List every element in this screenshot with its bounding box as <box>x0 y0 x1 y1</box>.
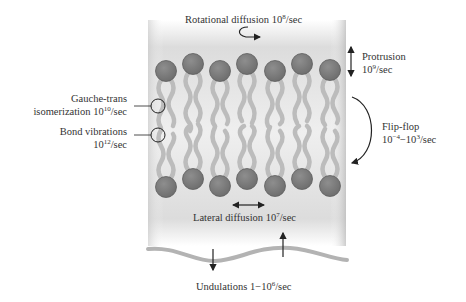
undulation-wave <box>148 248 347 261</box>
rotational-diffusion-label: Rotational diffusion 108/sec <box>185 13 302 26</box>
flipflop-label: Flip-flop 10−4−103/sec <box>382 120 436 146</box>
head-group <box>292 169 313 190</box>
head-group <box>210 176 231 197</box>
head-group <box>237 54 258 75</box>
head-group <box>156 61 177 82</box>
lipid-bilayer-diagram <box>0 0 466 302</box>
head-group <box>265 176 286 197</box>
head-group <box>183 169 204 190</box>
gauche-trans-label: Gauche-trans isomerization 1010/sec <box>33 92 127 118</box>
undulations-label: Undulations 1−106/sec <box>196 280 291 293</box>
head-group <box>156 177 177 198</box>
head-group <box>183 54 204 75</box>
flipflop-arrow-icon <box>352 97 372 163</box>
bond-vibrations-label: Bond vibrations 1012/sec <box>60 125 127 151</box>
head-group <box>292 54 313 75</box>
head-group <box>210 61 231 82</box>
lateral-diffusion-label: Lateral diffusion 107/sec <box>193 211 296 224</box>
head-group <box>320 176 341 197</box>
head-group <box>237 169 258 190</box>
head-group <box>265 61 286 82</box>
head-group <box>320 60 341 81</box>
protrusion-label: Protrusion 109/sec <box>362 50 406 76</box>
